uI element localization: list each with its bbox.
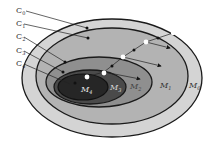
black-node-4 <box>74 82 77 85</box>
white-node-2 <box>121 55 126 60</box>
callout-dot-c2 <box>64 61 67 64</box>
callout-dot-c0 <box>86 27 89 30</box>
label-c0: C0 <box>16 6 25 16</box>
black-node-1 <box>157 37 160 40</box>
black-node-3 <box>111 65 114 68</box>
white-node-4 <box>85 75 90 80</box>
label-c2: C2 <box>16 32 25 42</box>
label-c4: C4 <box>16 59 25 69</box>
callout-dot-c3 <box>62 71 65 74</box>
white-node-0 <box>171 31 175 35</box>
black-node-2 <box>133 49 136 52</box>
label-c3: C3 <box>16 46 25 56</box>
label-c1: C1 <box>16 19 25 29</box>
white-node-3 <box>102 71 107 76</box>
nested-sets-diagram: M4 M3 M2 M1 M0 C0 C1 C2 C3 C4 <box>0 0 216 144</box>
callout-dot-c1 <box>87 37 90 40</box>
white-node-1 <box>144 40 149 45</box>
callout-line-c0 <box>26 11 87 28</box>
